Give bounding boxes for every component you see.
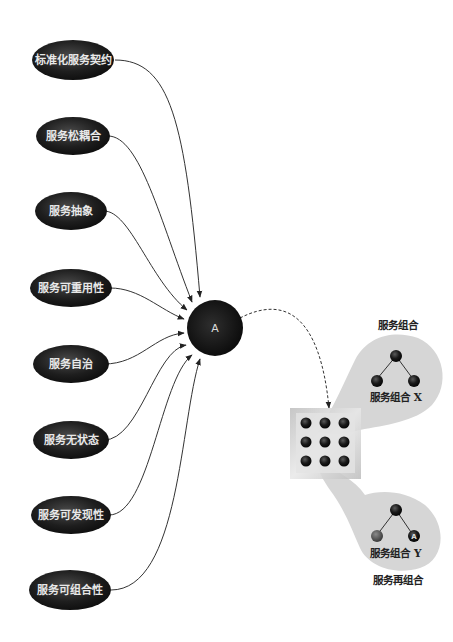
principle-label: 服务松耦合 [46,129,102,143]
reused-service-a-label: A [411,533,417,541]
composition-y-label: 服务组合 Y [370,547,422,559]
principle-label: 服务可重用性 [38,281,104,295]
principle-label: 服务可组合性 [37,583,103,597]
principle-label: 服务自治 [49,357,93,371]
principle-label: 标准化服务契约 [34,53,112,67]
connector-lines [104,60,200,590]
principle-node[interactable]: 服务松耦合 [36,117,110,155]
dashed-arrow [240,309,329,408]
principle-node[interactable]: 服务自治 [33,345,109,383]
principle-node[interactable]: 标准化服务契约 [32,40,114,80]
hub-label: A [211,322,219,335]
hub-node-a[interactable]: A [187,300,243,356]
principle-node[interactable]: 服务可发现性 [31,496,111,534]
principle-label: 服务抽象 [49,204,93,218]
principle-label: 服务可发现性 [38,508,104,522]
composition-title: 服务组合 [378,319,419,331]
composition-x-label: 服务组合 X [370,391,423,403]
principle-node[interactable]: 服务可重用性 [30,269,112,307]
soa-principles-diagram: 标准化服务契约 服务松耦合 服务抽象 服务可重用性 服务自治 服务无状态 服务可… [0,0,453,642]
principle-node[interactable]: 服务无状态 [33,421,109,459]
recomposition-title: 服务再组合 [373,574,424,586]
service-dot-grid [301,418,350,467]
principle-node[interactable]: 服务可组合性 [29,570,111,610]
service-inventory-box [290,408,361,479]
principle-node[interactable]: 服务抽象 [35,192,107,230]
principle-label: 服务无状态 [44,433,99,447]
